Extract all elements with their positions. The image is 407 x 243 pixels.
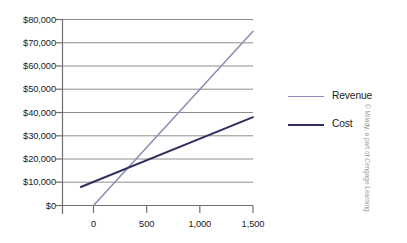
- chart-figure: $80,000 $70,000 $60,000 $50,000 $40,000 …: [0, 0, 407, 243]
- legend-item-revenue: Revenue: [288, 84, 398, 112]
- x-tick-label: 1,000: [188, 219, 211, 229]
- legend-swatch-revenue: [288, 96, 324, 97]
- x-tick-label: 0: [91, 219, 96, 229]
- legend-label-cost: Cost: [332, 118, 353, 129]
- x-tick-label: 1,500: [242, 219, 265, 229]
- legend-item-cost: Cost: [288, 112, 398, 140]
- chart-legend: Revenue Cost: [288, 84, 398, 140]
- legend-swatch-cost: [288, 124, 324, 126]
- x-tick-label: 500: [139, 219, 154, 229]
- legend-label-revenue: Revenue: [332, 90, 372, 101]
- copyright-credit: © Milady, a part of Cengage Learning: [364, 104, 371, 212]
